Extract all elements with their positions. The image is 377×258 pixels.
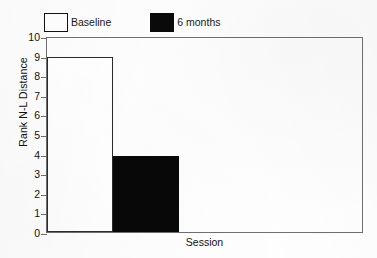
y-axis-tick-label: 6 — [34, 110, 40, 121]
legend-label-baseline: Baseline — [71, 17, 111, 28]
legend-item-6-months: 6 months — [150, 13, 220, 32]
y-axis-tick — [41, 38, 47, 39]
y-axis-tick-label: 0 — [34, 228, 40, 239]
y-axis-tick-label: 1 — [34, 208, 40, 219]
bar-baseline — [47, 57, 113, 232]
y-axis-tick — [41, 234, 47, 235]
legend-swatch-6-months-icon — [150, 13, 174, 32]
y-axis-title: Rank N-L Distance — [17, 22, 29, 182]
y-axis-tick-label: 2 — [34, 189, 40, 200]
y-axis-tick-label: 7 — [34, 91, 40, 102]
bar-chart-figure: Baseline 6 months 109876543210 Rank N-L … — [0, 0, 377, 258]
y-axis-tick-label: 5 — [34, 130, 40, 141]
bar-6-months — [113, 156, 179, 232]
y-axis-tick-label: 3 — [34, 169, 40, 180]
plot-area — [46, 37, 363, 233]
chart-legend: Baseline 6 months — [44, 11, 220, 33]
legend-swatch-baseline-icon — [44, 13, 68, 32]
x-axis-title: Session — [46, 236, 363, 248]
plot-inner — [47, 38, 362, 232]
legend-item-baseline: Baseline — [44, 13, 111, 32]
legend-label-6-months: 6 months — [177, 17, 220, 28]
y-axis-tick-label: 10 — [28, 32, 40, 43]
y-axis-tick-label: 9 — [34, 51, 40, 62]
y-axis-tick-label: 4 — [34, 149, 40, 160]
y-axis-tick-label: 8 — [34, 71, 40, 82]
